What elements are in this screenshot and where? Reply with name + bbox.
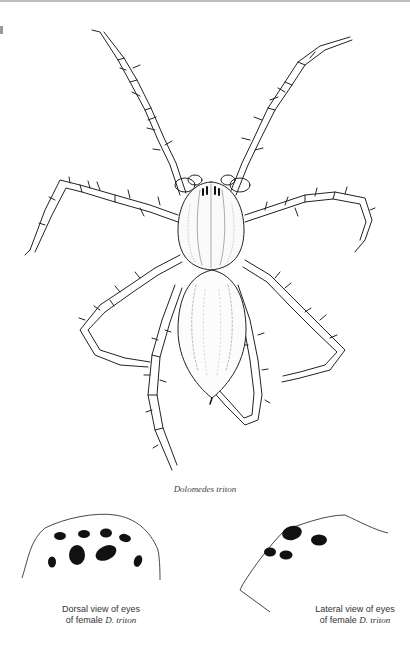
carapace	[178, 182, 244, 270]
leg-left-4	[144, 285, 182, 470]
dorsal-caption-species: D. triton	[105, 615, 136, 625]
eye-ple-right	[118, 533, 132, 544]
leg-left-3	[79, 255, 182, 367]
eye-ame-right	[100, 529, 112, 538]
eye-pme-right	[93, 542, 119, 564]
dorsal-caption: Dorsal view of eyes of female D. triton	[36, 604, 166, 626]
eye-lateral-right	[132, 554, 144, 568]
eye-lateral-left	[48, 557, 56, 568]
eye-lateral-mid	[280, 551, 293, 560]
eye-lateral-posterior	[311, 535, 327, 546]
eye-ple-left	[54, 532, 66, 540]
lateral-caption-line2: of female D. triton	[290, 615, 410, 626]
leg-left-1	[92, 30, 195, 195]
leg-left-2	[25, 177, 178, 255]
eye-lateral-large	[281, 524, 304, 543]
lateral-eye-inset	[240, 515, 388, 612]
lateral-caption-species: D. triton	[359, 615, 390, 625]
eye-ame-left	[78, 530, 90, 538]
leg-right-2	[245, 187, 375, 252]
spider-illustration	[0, 0, 410, 649]
species-caption: Dolomedes triton	[0, 484, 410, 494]
dorsal-caption-line2: of female D. triton	[36, 615, 166, 626]
lateral-caption: Lateral view of eyes of female D. triton	[290, 604, 410, 626]
eye-lateral-front	[264, 548, 276, 557]
dorsal-eye-inset	[22, 514, 160, 580]
abdomen	[178, 270, 246, 404]
eye-pme-left	[69, 545, 85, 565]
lateral-caption-line1: Lateral view of eyes	[290, 604, 410, 615]
dorsal-caption-line1: Dorsal view of eyes	[36, 604, 166, 615]
leg-right-1	[230, 37, 352, 195]
